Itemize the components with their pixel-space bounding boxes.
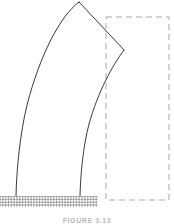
figure-container: FIGURE 3.13 <box>0 0 174 224</box>
apex-to-notch-line <box>79 2 124 50</box>
technical-drawing <box>0 0 174 224</box>
right-extreme-fiber-curve <box>80 50 124 196</box>
hatched-foundation <box>0 196 98 207</box>
figure-caption: FIGURE 3.13 <box>0 217 174 224</box>
undeformed-reference-rectangle <box>106 17 169 200</box>
left-extreme-fiber-curve <box>16 2 79 196</box>
